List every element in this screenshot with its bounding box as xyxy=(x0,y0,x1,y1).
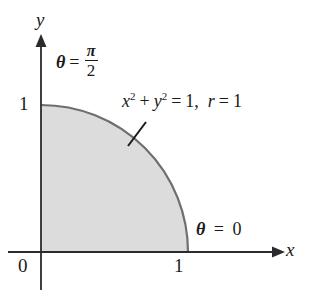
equation-plus-sign: + xyxy=(140,91,150,111)
theta-upper-bound-label: θ = π 2 xyxy=(56,44,98,80)
circle-equation-label: x2+y2=1,r=1 xyxy=(122,92,242,110)
shaded-region xyxy=(41,105,188,252)
x-tick-label-one: 1 xyxy=(174,256,184,275)
fraction-denominator-two: 2 xyxy=(86,61,97,79)
equation-rhs-value: 1 xyxy=(185,91,194,111)
equals-sign-upper: = xyxy=(69,53,79,71)
equation-comma: , xyxy=(194,91,199,111)
y-tick-label-one: 1 xyxy=(19,94,29,113)
equation-r-var: r xyxy=(208,91,215,111)
quarter-disk-diagram: y x 0 1 1 θ = π 2 θ = 0 x2+y2=1,r=1 xyxy=(0,0,311,290)
origin-tick-label: 0 xyxy=(18,256,28,275)
diagram-canvas xyxy=(0,0,311,290)
theta-lower-bound-label: θ = 0 xyxy=(196,220,242,238)
x-axis-label: x xyxy=(286,240,294,259)
equation-r-value: 1 xyxy=(233,91,242,111)
theta-lower-value: 0 xyxy=(233,219,242,239)
theta-symbol-lower: θ xyxy=(196,219,205,239)
equation-r-equals-sign: = xyxy=(219,91,229,111)
fraction-numerator-pi: π xyxy=(86,43,97,60)
equation-y-exponent: 2 xyxy=(162,90,168,102)
y-axis-label: y xyxy=(36,10,44,29)
pi-over-two-fraction: π 2 xyxy=(85,43,98,79)
theta-symbol-upper: θ xyxy=(56,53,65,71)
equals-sign-lower: = xyxy=(214,219,224,239)
equation-x-var: x xyxy=(122,91,130,111)
equation-y-var: y xyxy=(154,91,162,111)
y-axis-arrowhead xyxy=(36,34,47,47)
equation-equals-sign: = xyxy=(171,91,181,111)
equation-x-exponent: 2 xyxy=(130,90,136,102)
x-axis-arrowhead xyxy=(272,247,285,258)
